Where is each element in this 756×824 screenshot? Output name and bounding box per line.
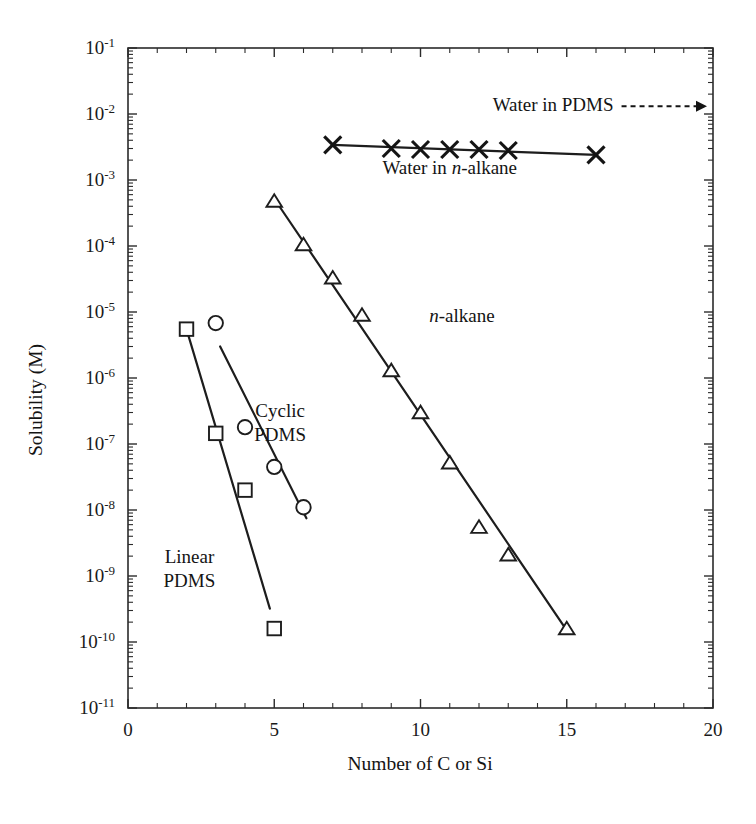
y-axis-title: Solubility (M) [25, 344, 47, 456]
data-point-circle [267, 460, 281, 474]
x-tick-label: 0 [123, 719, 133, 740]
n-alkane-label: n-alkane [429, 305, 494, 326]
data-point-square [209, 427, 223, 441]
figure-container: 10-110-210-310-410-510-610-710-810-910-1… [0, 0, 756, 824]
data-point-circle [209, 316, 223, 330]
data-point-square [180, 322, 194, 336]
data-point-square [238, 483, 252, 497]
solubility-chart: 10-110-210-310-410-510-610-710-810-910-1… [0, 0, 756, 824]
x-tick-label: 15 [557, 719, 576, 740]
x-tick-label: 10 [411, 719, 430, 740]
x-axis-title: Number of C or Si [347, 753, 493, 774]
x-tick-label: 5 [270, 719, 280, 740]
data-point-square [268, 622, 282, 636]
data-point-circle [238, 420, 252, 434]
water-in-n-alkane-label: Water in n-alkane [382, 157, 517, 178]
x-tick-label: 20 [704, 719, 723, 740]
data-point-circle [296, 500, 310, 514]
water-in-pdms-label: Water in PDMS [493, 94, 614, 115]
